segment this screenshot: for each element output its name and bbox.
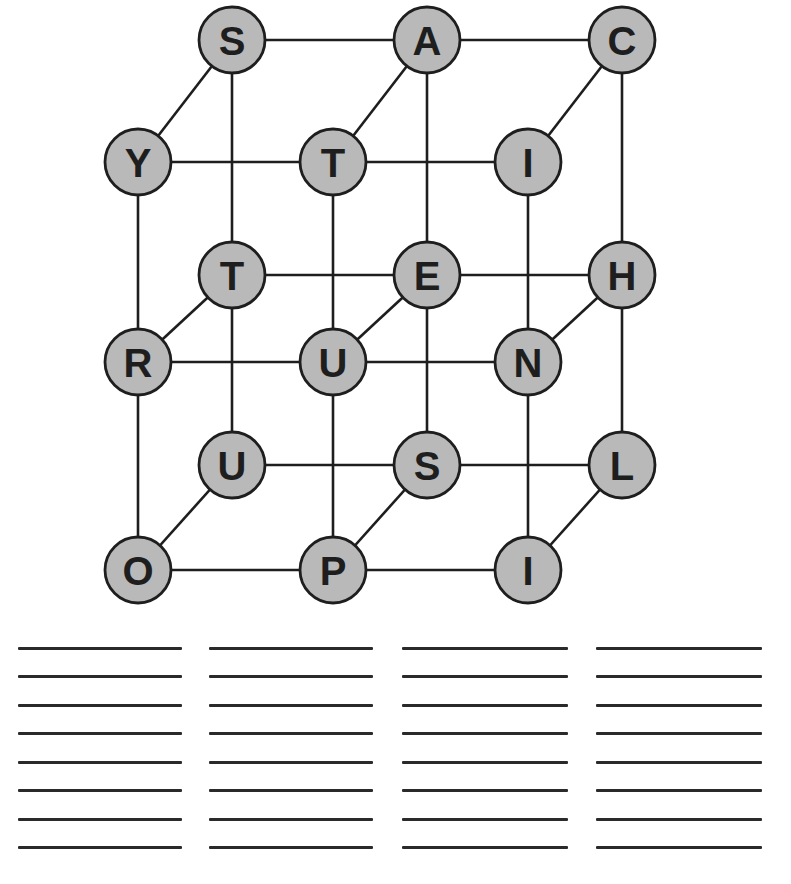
letter-node: U (199, 432, 265, 498)
answer-blank-line[interactable] (402, 789, 568, 792)
answer-blank-line[interactable] (596, 704, 762, 707)
node-letter: T (220, 254, 244, 298)
answer-blank-line[interactable] (596, 818, 762, 821)
node-letter: Y (125, 141, 152, 185)
letter-node: L (589, 432, 655, 498)
answer-blank-line[interactable] (402, 675, 568, 678)
answer-blank-line[interactable] (402, 761, 568, 764)
node-letter: C (608, 19, 637, 63)
letter-node: R (105, 329, 171, 395)
answer-blank-line[interactable] (596, 761, 762, 764)
answer-blank-line[interactable] (18, 675, 182, 678)
answer-blank-line[interactable] (209, 761, 373, 764)
answer-blank-line[interactable] (18, 818, 182, 821)
letter-node: N (495, 329, 561, 395)
answer-blank-line[interactable] (18, 846, 182, 849)
letter-node: S (394, 432, 460, 498)
node-letter: I (522, 141, 533, 185)
node-letter: N (514, 341, 543, 385)
answer-blank-line[interactable] (209, 675, 373, 678)
answer-blank-line[interactable] (209, 818, 373, 821)
node-letter: L (610, 444, 634, 488)
node-letter: T (321, 141, 345, 185)
answer-blank-line[interactable] (596, 647, 762, 650)
letter-node: O (105, 537, 171, 603)
answer-blank-line[interactable] (18, 704, 182, 707)
node-letter: S (219, 19, 246, 63)
answer-blank-line[interactable] (596, 789, 762, 792)
letter-node: H (589, 242, 655, 308)
node-letter: R (124, 341, 153, 385)
node-letter: H (608, 254, 637, 298)
answer-blank-line[interactable] (402, 647, 568, 650)
letter-node: U (300, 329, 366, 395)
node-letter: A (413, 19, 442, 63)
letter-node: A (394, 7, 460, 73)
letter-node: I (495, 537, 561, 603)
answer-blank-line[interactable] (209, 846, 373, 849)
answer-blank-line[interactable] (209, 732, 373, 735)
letter-node: S (199, 7, 265, 73)
answer-blank-line[interactable] (402, 704, 568, 707)
answer-blank-line[interactable] (18, 647, 182, 650)
word-cube-diagram: SACTEHUSLYTIRUNOPI (0, 0, 791, 620)
answer-blank-line[interactable] (18, 789, 182, 792)
letter-node: P (300, 537, 366, 603)
node-letter: I (522, 549, 533, 593)
answer-blank-line[interactable] (596, 675, 762, 678)
answer-blank-line[interactable] (18, 732, 182, 735)
answer-blank-line[interactable] (18, 761, 182, 764)
node-letter: U (319, 341, 348, 385)
letter-node: I (495, 129, 561, 195)
node-letter: P (320, 549, 347, 593)
node-letter: S (414, 444, 441, 488)
node-letter: E (414, 254, 441, 298)
answer-blank-line[interactable] (209, 704, 373, 707)
node-letter: U (218, 444, 247, 488)
answer-blank-line[interactable] (402, 732, 568, 735)
answer-blank-line[interactable] (209, 647, 373, 650)
letter-node: T (199, 242, 265, 308)
answer-blank-line[interactable] (209, 789, 373, 792)
letter-node: C (589, 7, 655, 73)
answer-blank-line[interactable] (402, 818, 568, 821)
answer-blank-line[interactable] (596, 732, 762, 735)
answer-blank-line[interactable] (402, 846, 568, 849)
node-letter: O (122, 549, 153, 593)
letter-node: E (394, 242, 460, 308)
answer-blank-line[interactable] (596, 846, 762, 849)
letter-node: Y (105, 129, 171, 195)
letter-node: T (300, 129, 366, 195)
